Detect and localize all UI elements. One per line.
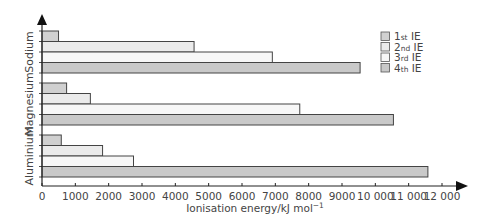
x-tick-label: 4000 [162, 190, 189, 202]
category-label-magnesium: Magnesium [23, 72, 36, 135]
x-tick-label: 6000 [229, 190, 256, 202]
bar-magnesium-4 [42, 115, 393, 126]
bar-sodium-3 [42, 52, 272, 63]
x-tick-label: 2000 [95, 190, 122, 202]
bars-group [42, 31, 428, 177]
y-axis-arrow-icon [37, 14, 47, 25]
x-tick-label: 1000 [62, 190, 89, 202]
x-tick-label: 3000 [129, 190, 156, 202]
bar-magnesium-2 [42, 94, 90, 105]
legend: 1st IE2nd IE3rd IE4th IE [381, 30, 423, 74]
bar-sodium-4 [42, 63, 360, 74]
x-axis-title: Ionisation energy/kJ mol−1 [186, 201, 324, 214]
x-tick-label: 10 000 [357, 190, 394, 202]
legend-swatch-3 [381, 53, 390, 62]
bar-magnesium-1 [42, 83, 67, 94]
legend-swatch-2 [381, 43, 390, 52]
legend-swatch-4 [381, 64, 390, 73]
bar-aluminium-4 [42, 167, 428, 178]
x-tick-label: 12 000 [424, 190, 461, 202]
bar-aluminium-2 [42, 146, 103, 157]
category-label-sodium: Sodium [23, 31, 36, 72]
category-labels-group: SodiumMagnesiumAluminium [23, 31, 36, 185]
bar-sodium-2 [42, 42, 194, 53]
bar-sodium-1 [42, 31, 59, 42]
bar-aluminium-1 [42, 135, 61, 146]
x-tick-label: 5000 [195, 190, 222, 202]
x-tick-label: 9000 [329, 190, 356, 202]
bar-aluminium-3 [42, 156, 134, 167]
x-tick-label: 11 000 [390, 190, 427, 202]
legend-swatch-1 [381, 32, 390, 41]
ionisation-energy-chart: 010002000300040005000600070008000900010 … [0, 0, 483, 220]
bar-magnesium-3 [42, 104, 300, 115]
x-tick-label: 7000 [262, 190, 289, 202]
legend-label-4: 4th IE [394, 62, 421, 74]
category-label-aluminium: Aluminium [23, 126, 36, 185]
x-tick-label: 0 [39, 190, 46, 202]
